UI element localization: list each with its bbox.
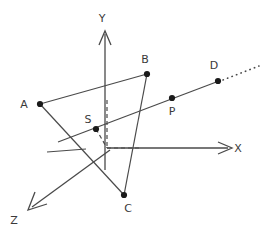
point-label-A: A bbox=[20, 98, 28, 111]
dashed-guides-group bbox=[96, 100, 142, 148]
point-label-P: P bbox=[169, 105, 176, 118]
line-S-P-D bbox=[58, 81, 219, 142]
point-label-C: C bbox=[124, 202, 132, 215]
z-axis bbox=[32, 150, 110, 207]
segment-A-B bbox=[40, 74, 147, 104]
points-group bbox=[37, 71, 221, 198]
point-A bbox=[37, 101, 43, 107]
triangle-abc bbox=[40, 74, 147, 195]
point-label-B: B bbox=[141, 53, 149, 66]
point-label-S: S bbox=[85, 113, 92, 126]
figure-canvas: Y X Z A B C S P D bbox=[0, 0, 274, 236]
axis-label-z: Z bbox=[10, 214, 18, 227]
ray-beyond-D bbox=[223, 66, 259, 80]
point-P bbox=[169, 95, 175, 101]
segment-A-C bbox=[40, 104, 124, 195]
geometry-figure: Y X Z A B C S P D bbox=[0, 0, 274, 236]
segment-B-C bbox=[124, 74, 147, 195]
point-label-D: D bbox=[210, 59, 218, 72]
point-B bbox=[144, 71, 150, 77]
point-D bbox=[215, 78, 221, 84]
point-C bbox=[121, 192, 127, 198]
axes-group bbox=[28, 31, 232, 210]
axis-label-y: Y bbox=[98, 12, 106, 25]
x-axis-negative-stub bbox=[47, 149, 86, 152]
axis-label-x: X bbox=[234, 142, 242, 155]
z-axis-arrowhead bbox=[28, 192, 47, 210]
point-S bbox=[93, 126, 99, 132]
